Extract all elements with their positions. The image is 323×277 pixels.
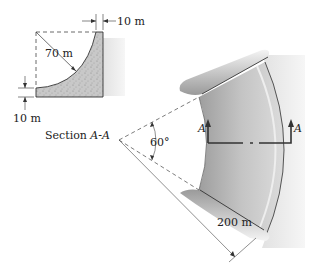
label-angle: 60° bbox=[150, 136, 170, 149]
label-top-thickness: 10 m bbox=[117, 15, 145, 28]
section-title: Section A-A bbox=[45, 129, 110, 142]
section-water bbox=[103, 38, 125, 96]
section-a-a bbox=[18, 14, 125, 110]
section-marker-right: A bbox=[293, 122, 302, 135]
section-marker-left: A bbox=[197, 122, 206, 135]
dam-diagram: 10 m 70 m 10 m Section A-A 60° 200 m A A bbox=[0, 0, 323, 277]
radial-dashed-top bbox=[119, 97, 199, 140]
arrowhead bbox=[103, 19, 108, 23]
arrowhead bbox=[91, 19, 96, 23]
label-bottom-thickness: 10 m bbox=[13, 112, 41, 125]
label-radius-plan: 200 m bbox=[217, 216, 252, 229]
radius-ext-line bbox=[229, 238, 256, 262]
label-radius-section: 70 m bbox=[45, 47, 73, 60]
plan-view bbox=[119, 50, 305, 262]
